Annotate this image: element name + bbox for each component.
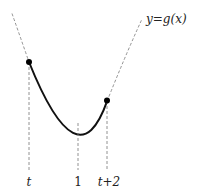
x-label-t: t [27, 175, 32, 189]
dashed-curve-left [12, 14, 29, 63]
solid-curve-segment [29, 62, 107, 135]
curve-label: y=g(x) [145, 12, 187, 26]
dashed-curve-right [107, 19, 142, 101]
curve-label-g: g(x) [163, 12, 187, 26]
point-left-endpoint [26, 59, 32, 65]
point-right-endpoint [104, 98, 110, 104]
curve-label-eq: = [153, 12, 163, 26]
x-label-1: 1 [74, 175, 82, 189]
parabola-diagram: y=g(x) t 1 t+2 [0, 0, 197, 192]
x-label-t-plus-2: t+2 [98, 175, 121, 189]
